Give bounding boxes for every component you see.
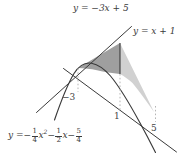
curve-eq-prefix: y = — [8, 130, 24, 140]
tick-label-neg3: −3 — [62, 93, 75, 102]
curve-eq-frac-one-quarter: 14 — [32, 128, 38, 144]
shaded-region-right — [120, 43, 154, 112]
label-tangent-line-x-plus-1: y = x + 1 — [133, 27, 175, 36]
label-parabola-equation: y =−14x2−12x−54 — [8, 128, 83, 144]
curve-eq-minus-2: − — [47, 130, 55, 140]
math-figure: y = −3x + 5 y = x + 1 y =−14x2−12x−54 −3… — [0, 0, 187, 158]
curve-eq-minus-1: − — [24, 130, 32, 140]
curve-eq-minus-3: − — [68, 130, 76, 140]
curve-eq-frac-one-half: 12 — [55, 128, 61, 144]
tick-label-1: 1 — [114, 112, 120, 121]
tick-label-5: 5 — [151, 124, 157, 133]
label-tangent-line-neg3x-plus-5: y = −3x + 5 — [73, 4, 129, 13]
curve-eq-frac-five-quarters: 54 — [76, 128, 82, 144]
